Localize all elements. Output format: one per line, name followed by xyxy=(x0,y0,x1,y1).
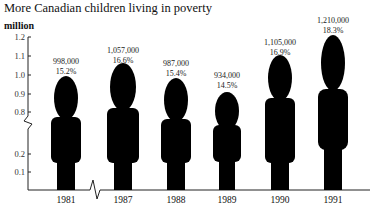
x-axis-break-icon xyxy=(90,180,100,199)
chart-plot: 1.2 1.1 1.0 0.9 0.8 0.2 0.1 xyxy=(0,0,373,205)
svg-text:1,210,000: 1,210,000 xyxy=(317,16,349,25)
x-tick-labels: 1981 1987 1988 1989 1990 1991 xyxy=(57,195,343,205)
figure-1991 xyxy=(318,35,348,190)
svg-text:0.9: 0.9 xyxy=(14,89,25,99)
svg-text:987,000: 987,000 xyxy=(163,59,189,68)
svg-text:1990: 1990 xyxy=(271,195,290,205)
svg-text:0.1: 0.1 xyxy=(14,167,25,177)
svg-text:16.9%: 16.9% xyxy=(270,48,291,57)
svg-text:1988: 1988 xyxy=(167,195,186,205)
figure-1987 xyxy=(107,63,139,190)
svg-text:15.4%: 15.4% xyxy=(166,69,187,78)
svg-text:1.2: 1.2 xyxy=(14,32,25,42)
svg-text:0.2: 0.2 xyxy=(14,149,25,159)
figure-1989 xyxy=(213,92,241,190)
svg-text:1,105,000: 1,105,000 xyxy=(264,38,296,47)
svg-text:18.3%: 18.3% xyxy=(323,26,344,35)
y-ticks: 1.2 1.1 1.0 0.9 0.8 0.2 0.1 xyxy=(14,32,31,177)
svg-text:1,057,000: 1,057,000 xyxy=(107,46,139,55)
figure-1988 xyxy=(161,78,191,190)
svg-text:1991: 1991 xyxy=(324,195,343,205)
svg-text:1987: 1987 xyxy=(114,195,133,205)
svg-text:16.6%: 16.6% xyxy=(113,56,134,65)
svg-text:934,000: 934,000 xyxy=(214,71,240,80)
svg-text:0.8: 0.8 xyxy=(14,107,25,117)
svg-text:1981: 1981 xyxy=(57,195,76,205)
svg-text:998,000: 998,000 xyxy=(53,57,79,66)
value-labels: 998,000 15.2% 1,057,000 16.6% 987,000 15… xyxy=(53,16,349,90)
svg-text:1.0: 1.0 xyxy=(14,70,25,80)
svg-text:1.1: 1.1 xyxy=(14,51,25,61)
svg-text:14.5%: 14.5% xyxy=(217,81,238,90)
svg-text:1989: 1989 xyxy=(218,195,237,205)
svg-text:15.2%: 15.2% xyxy=(56,67,77,76)
figure-1981 xyxy=(51,76,81,190)
y-axis-break-icon xyxy=(24,116,32,129)
figure-1990 xyxy=(265,55,295,190)
